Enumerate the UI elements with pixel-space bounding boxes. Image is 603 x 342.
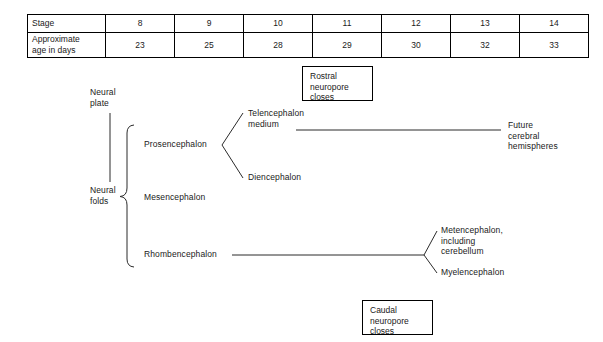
stage-age-table: Stage 8 9 10 11 12 13 14 Approximate age…	[27, 14, 589, 58]
row-header-age: Approximate age in days	[28, 33, 106, 58]
age-cell-4: 29	[313, 33, 382, 58]
label-telencephalon-medium: Telencephalon medium	[248, 108, 304, 129]
figure-root: Stage 8 9 10 11 12 13 14 Approximate age…	[0, 0, 603, 342]
age-cell-7: 33	[520, 33, 589, 58]
primary-vesicle-brace	[120, 125, 134, 267]
label-mesencephalon: Mesencephalon	[144, 192, 205, 203]
age-cell-5: 30	[382, 33, 451, 58]
label-rhombencephalon: Rhombencephalon	[144, 249, 217, 260]
prosencephalon-split	[222, 113, 243, 178]
age-cell-3: 28	[244, 33, 313, 58]
stage-cell-5: 12	[382, 15, 451, 33]
event-box-rostral-neuropore: Rostral neuropore closes	[302, 66, 373, 101]
table-row-age: Approximate age in days 23 25 28 29 30 3…	[28, 33, 589, 58]
event-box-caudal-neuropore: Caudal neuropore closes	[362, 300, 433, 335]
age-cell-1: 23	[106, 33, 175, 58]
stage-cell-7: 14	[520, 15, 589, 33]
stage-cell-6: 13	[451, 15, 520, 33]
label-metencephalon: Metencephalon, including cerebellum	[441, 225, 503, 257]
row-header-stage: Stage	[28, 15, 106, 33]
age-cell-2: 25	[175, 33, 244, 58]
label-neural-folds: Neural folds	[90, 185, 116, 206]
age-cell-6: 32	[451, 33, 520, 58]
label-future-cerebral-hemispheres: Future cerebral hemispheres	[508, 120, 558, 152]
stage-cell-3: 10	[244, 15, 313, 33]
stage-cell-1: 8	[106, 15, 175, 33]
label-neural-plate: Neural plate	[90, 87, 116, 108]
table-row-stage: Stage 8 9 10 11 12 13 14	[28, 15, 589, 33]
rhombencephalon-split	[424, 231, 437, 273]
label-prosencephalon: Prosencephalon	[144, 139, 207, 150]
stage-cell-2: 9	[175, 15, 244, 33]
label-diencephalon: Diencephalon	[248, 172, 301, 183]
stage-cell-4: 11	[313, 15, 382, 33]
label-myelencephalon: Myelencephalon	[441, 267, 504, 278]
